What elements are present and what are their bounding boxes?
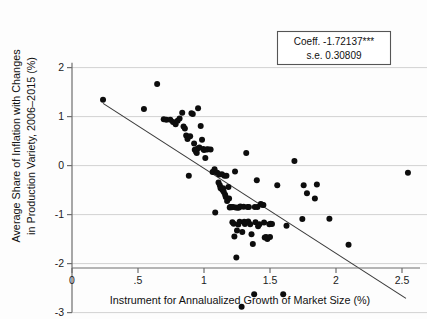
scatter-point: [225, 184, 231, 190]
scatter-point: [199, 137, 205, 143]
y-tick-label: -3: [55, 306, 64, 318]
y-axis-title-line1: Average Share of Inflation with Changes: [10, 49, 22, 243]
scatter-point: [182, 126, 188, 132]
scatter-point: [346, 242, 352, 248]
x-tick-label: 2: [333, 274, 339, 286]
y-tick-label: 1: [58, 110, 64, 122]
scatter-point: [301, 182, 307, 188]
y-tick-label: 0: [58, 159, 64, 171]
scatter-point: [284, 223, 290, 229]
scatter-point: [239, 229, 245, 235]
x-tick-label: 1.5: [263, 274, 278, 286]
scatter-point: [405, 170, 411, 176]
scatter-point: [274, 182, 280, 188]
standard-error-label: s.e. 0.30809: [306, 50, 361, 61]
y-tick-label: 2: [58, 61, 64, 73]
scatter-point: [231, 233, 237, 239]
scatter-point: [304, 190, 310, 196]
scatter-point: [179, 110, 185, 116]
plot-canvas: 0.511.522.5 210-1-2-3 Instrument for Ann…: [0, 0, 427, 319]
scatter-point: [233, 254, 239, 260]
scatter-point: [247, 221, 253, 227]
scatter-point: [177, 116, 183, 122]
scatter-point: [202, 155, 208, 161]
scatter-point: [186, 173, 192, 179]
scatter-point: [226, 195, 232, 201]
scatter-point: [212, 209, 218, 215]
scatter-point: [246, 204, 252, 210]
scatter-point: [223, 173, 229, 179]
coefficient-label: Coeff. -1.72137***: [294, 36, 375, 47]
statistics-legend: Coeff. -1.72137*** s.e. 0.30809: [278, 32, 391, 65]
scatter-point: [195, 105, 201, 111]
x-tick-label: 0: [69, 274, 75, 286]
x-axis-title: Instrument for Annalualized Growth of Ma…: [110, 294, 370, 306]
scatter-point: [254, 177, 260, 183]
scatter-point: [198, 123, 204, 129]
scatter-point: [267, 234, 273, 240]
scatter-point: [187, 133, 193, 139]
scatter-point: [299, 216, 305, 222]
scatter-point: [232, 168, 238, 174]
scatter-point: [141, 106, 147, 112]
scatter-point: [291, 158, 297, 164]
x-tick-label: 1: [201, 274, 207, 286]
scatter-point: [269, 221, 275, 227]
scatter-point: [312, 195, 318, 201]
scatter-point: [326, 216, 332, 222]
scatter-point: [208, 146, 214, 152]
scatter-point: [190, 111, 196, 117]
y-tick-label: -2: [55, 257, 64, 269]
x-tick-label: 2.5: [395, 274, 410, 286]
y-tick-label: -1: [55, 208, 64, 220]
scatter-point: [100, 97, 106, 103]
scatter-point: [154, 81, 160, 87]
x-tick-label: .5: [134, 274, 143, 286]
scatter-point: [243, 150, 249, 156]
scatter-point: [234, 228, 240, 234]
scatter-point: [250, 241, 256, 247]
scatter-plot-figure: 0.511.522.5 210-1-2-3 Instrument for Ann…: [0, 0, 427, 319]
scatter-point: [249, 231, 255, 237]
scatter-point: [314, 181, 320, 187]
scatter-point: [260, 202, 266, 208]
y-axis-title-line2: in Production Variety, 2006–2015 (%): [25, 57, 37, 235]
scatter-point: [261, 219, 267, 225]
scatter-point: [191, 141, 197, 147]
